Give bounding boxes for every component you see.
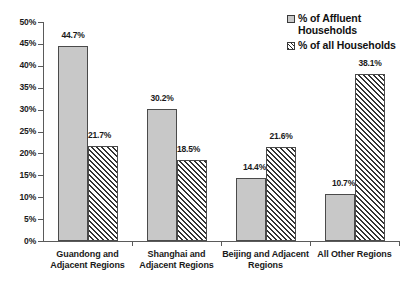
- bar-label-group-2-all: 18.5%: [177, 145, 215, 154]
- y-tick-10: [38, 197, 44, 198]
- bar-group-4-affluent: [325, 194, 355, 241]
- bar-group-2-affluent: [147, 109, 177, 241]
- y-tick-label-50: 50%: [4, 18, 36, 27]
- y-tick-25: [38, 132, 44, 133]
- bar-label-group-4-all: 38.1%: [355, 59, 385, 68]
- y-tick-label-20: 20%: [4, 149, 36, 158]
- y-tick-label-0: 0%: [4, 237, 36, 246]
- y-tick-label-35: 35%: [4, 83, 36, 92]
- bar-group-1-affluent: [58, 46, 88, 241]
- bar-label-group-3-affluent: 14.4%: [228, 163, 266, 172]
- legend-label-all-households: % of all Households: [298, 39, 396, 51]
- y-tick-35: [38, 88, 44, 89]
- bar-group-1-all: [88, 146, 118, 241]
- x-axis-label-guandong: Guandong and Adjacent Regions: [43, 249, 132, 271]
- y-tick-30: [38, 110, 44, 111]
- bar-rect: [355, 74, 385, 241]
- bar-group-4-all: [355, 74, 385, 241]
- x-tick-3: [310, 241, 311, 246]
- y-tick-label-5: 5%: [4, 215, 36, 224]
- chart-legend: % of Affluent Households % of all Househ…: [287, 12, 414, 54]
- y-tick-20: [38, 153, 44, 154]
- y-tick-0: [38, 241, 44, 242]
- x-axis-label-beijing: Beijing and Adjacent Regions: [221, 249, 310, 271]
- y-tick-15: [38, 175, 44, 176]
- bar-rect: [88, 146, 118, 241]
- bar-label-group-1-all: 21.7%: [88, 131, 126, 140]
- bar-rect: [236, 178, 266, 241]
- y-tick-40: [38, 66, 44, 67]
- x-tick-4: [399, 241, 400, 246]
- bar-chart: % of Affluent Households % of all Househ…: [0, 0, 414, 282]
- y-tick-45: [38, 44, 44, 45]
- x-axis-label-shanghai: Shanghai and Adjacent Regions: [132, 249, 221, 271]
- y-tick-label-30: 30%: [4, 105, 36, 114]
- bar-label-group-3-all: 21.6%: [266, 132, 296, 141]
- legend-label-affluent-households: % of Affluent Households: [298, 12, 361, 36]
- bar-label-group-1-affluent: 44.7%: [58, 31, 88, 40]
- bar-label-group-4-affluent: 10.7%: [317, 179, 355, 188]
- bar-rect: [147, 109, 177, 241]
- bar-group-3-all: [266, 147, 296, 242]
- bar-group-3-affluent: [236, 178, 266, 241]
- y-tick-label-10: 10%: [4, 193, 36, 202]
- y-tick-label-45: 45%: [4, 39, 36, 48]
- bar-rect: [58, 46, 88, 241]
- y-tick-5: [38, 219, 44, 220]
- bar-label-group-2-affluent: 30.2%: [147, 94, 177, 103]
- x-tick-2: [221, 241, 222, 246]
- x-axis-label-all-other: All Other Regions: [310, 249, 399, 260]
- legend-swatch-solid-icon: [287, 15, 295, 23]
- bar-group-2-all: [177, 160, 207, 241]
- x-tick-1: [132, 241, 133, 246]
- legend-item-affluent-households: % of Affluent Households: [287, 12, 414, 36]
- y-tick-label-15: 15%: [4, 171, 36, 180]
- y-tick-label-40: 40%: [4, 61, 36, 70]
- bar-rect: [266, 147, 296, 242]
- legend-item-all-households: % of all Households: [287, 39, 414, 51]
- bar-rect: [325, 194, 355, 241]
- bar-rect: [177, 160, 207, 241]
- legend-swatch-hatch-icon: [287, 42, 295, 50]
- y-tick-label-25: 25%: [4, 127, 36, 136]
- y-tick-50: [38, 22, 44, 23]
